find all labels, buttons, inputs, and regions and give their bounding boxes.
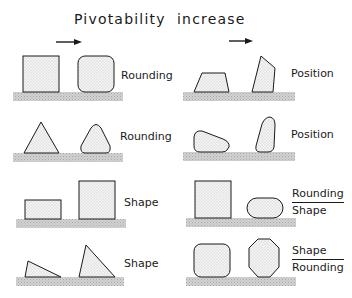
triangle-shape: [24, 122, 59, 153]
tall-square-shape: [79, 181, 115, 219]
square-shape: [23, 56, 59, 92]
arrow-right-icon: [229, 38, 253, 44]
label-shape: Shape: [124, 196, 158, 209]
label-numerator: Shape: [292, 244, 344, 260]
ground-surface: [13, 92, 123, 101]
rounded-block-lying-shape: [194, 131, 229, 152]
label-rounding: Rounding: [120, 130, 172, 143]
left-row-1: [13, 56, 123, 101]
label-rounding-over-shape: Rounding Shape: [292, 187, 344, 218]
label-position: Position: [291, 67, 334, 80]
tall-triangle-shape: [79, 245, 115, 277]
octagon-shape: [249, 239, 279, 277]
right-row-2: [183, 117, 295, 161]
rounded-triangle-shape: [81, 125, 110, 154]
left-row-4: [16, 245, 124, 286]
rounded-square-shape: [194, 244, 230, 277]
label-numerator: Rounding: [292, 187, 344, 203]
label-denominator: Rounding: [292, 260, 344, 275]
arrow-right-icon: [56, 39, 82, 45]
ground-surface: [13, 153, 123, 162]
ground-surface: [16, 277, 124, 286]
left-row-3: [16, 181, 126, 228]
ground-surface: [186, 218, 296, 227]
label-denominator: Shape: [292, 203, 344, 218]
label-shape-over-rounding: Shape Rounding: [292, 244, 344, 275]
flat-rectangle-shape: [25, 200, 61, 219]
tipped-trapezoid-shape: [252, 56, 275, 92]
tall-square-shape: [195, 181, 231, 218]
rounded-square-shape: [78, 56, 114, 92]
rounded-block-standing-shape: [256, 117, 275, 152]
ground-surface: [183, 152, 295, 161]
label-shape: Shape: [124, 257, 158, 270]
ground-surface: [16, 219, 126, 228]
label-position: Position: [291, 128, 334, 141]
right-row-3: [186, 181, 296, 227]
label-rounding: Rounding: [121, 69, 173, 82]
ground-surface: [183, 92, 295, 101]
capsule-shape: [247, 198, 283, 218]
low-triangle-shape: [25, 261, 61, 277]
left-row-2: [13, 122, 123, 162]
trapezoid-shape: [194, 73, 229, 92]
ground-surface: [186, 277, 296, 286]
right-row-4: [186, 239, 296, 286]
right-row-1: [183, 56, 295, 101]
